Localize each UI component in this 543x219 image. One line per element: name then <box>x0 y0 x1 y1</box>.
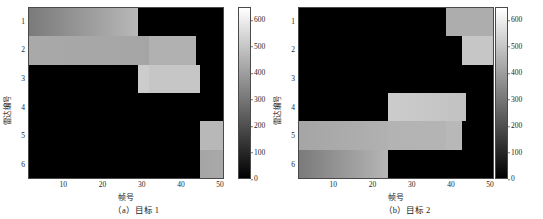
colorbar-tick-label: 200 <box>511 122 522 130</box>
x-tick-label: 30 <box>408 181 416 189</box>
x-axis-label-a: 帧号 <box>28 191 224 202</box>
heatmap-cell <box>29 8 138 36</box>
y-tick-label: 1 <box>11 7 25 36</box>
heatmap-cell <box>388 93 466 121</box>
heatmap-cell <box>200 150 223 178</box>
colorbar-tick-label: 600 <box>254 16 265 24</box>
colorbar-tick-label: 600 <box>511 16 522 24</box>
heatmap-cell <box>446 8 493 36</box>
heatmap-cells-a <box>29 8 223 178</box>
x-tick-label: 20 <box>99 181 107 189</box>
heatmap-cell <box>299 150 388 178</box>
y-axis-ticks-a: 123456 <box>11 7 25 179</box>
y-tick-label: 2 <box>11 36 25 65</box>
colorbar-tick-label: 300 <box>254 96 265 104</box>
panel-caption-b: （b）目标 2 <box>271 203 543 215</box>
colorbar-tick-label: 400 <box>254 69 265 77</box>
heatmap-plot-a[interactable] <box>28 7 224 179</box>
y-axis-label-a: 雷达编号 <box>1 64 12 156</box>
x-tick-label: 30 <box>138 181 146 189</box>
colorbar-tick-label: 500 <box>511 43 522 51</box>
y-tick-label: 2 <box>281 36 295 65</box>
heatmap-cell <box>446 121 462 149</box>
y-tick-label: 3 <box>11 64 25 93</box>
x-tick-label: 40 <box>177 181 185 189</box>
figure-root: 123456 雷达编号 1020304050 帧号 01002003004005… <box>0 0 543 219</box>
panel-caption-a: （a）目标 1 <box>0 203 272 215</box>
colorbar-tick-label: 500 <box>254 43 265 51</box>
x-tick-label: 50 <box>216 181 224 189</box>
y-tick-label: 1 <box>281 7 295 36</box>
heatmap-cell <box>299 121 388 149</box>
colorbar-tick-label: 300 <box>511 96 522 104</box>
colorbar-tick-label: 100 <box>511 149 522 157</box>
colorbar-tick-label: 0 <box>511 175 515 183</box>
y-tick-label: 5 <box>281 122 295 151</box>
heatmap-cell <box>149 65 199 93</box>
y-tick-label: 3 <box>281 64 295 93</box>
colorbar-tick-label: 0 <box>254 175 258 183</box>
heatmap-cells-b <box>299 8 493 178</box>
y-tick-label: 6 <box>11 150 25 179</box>
y-tick-label: 5 <box>11 122 25 151</box>
heatmap-cell <box>200 121 223 149</box>
colorbar-b <box>495 7 508 179</box>
x-tick-label: 10 <box>60 181 68 189</box>
colorbar-tick-label: 100 <box>254 149 265 157</box>
x-axis-label-b: 帧号 <box>298 191 494 202</box>
x-tick-label: 40 <box>447 181 455 189</box>
colorbar-tick-label: 200 <box>254 122 265 130</box>
y-axis-label-b: 雷达编号 <box>271 64 282 156</box>
x-tick-label: 20 <box>369 181 377 189</box>
heatmap-plot-b[interactable] <box>298 7 494 179</box>
heatmap-cell <box>29 36 149 64</box>
colorbar-ticks-b: 0100200300400500600 <box>509 7 535 179</box>
y-axis-ticks-b: 123456 <box>281 7 295 179</box>
heatmap-cell <box>138 65 150 93</box>
heatmap-cell <box>388 121 446 149</box>
heatmap-cell <box>149 36 196 64</box>
colorbar-tick-label: 400 <box>511 69 522 77</box>
colorbar-a <box>238 7 251 179</box>
panel-target-1: 123456 雷达编号 1020304050 帧号 01002003004005… <box>0 0 272 219</box>
x-tick-label: 50 <box>486 181 494 189</box>
panel-target-2: 123456 雷达编号 1020304050 帧号 01002003004005… <box>271 0 543 219</box>
y-tick-label: 4 <box>281 93 295 122</box>
x-tick-label: 10 <box>330 181 338 189</box>
heatmap-cell <box>462 36 493 64</box>
y-tick-label: 6 <box>281 150 295 179</box>
y-tick-label: 4 <box>11 93 25 122</box>
